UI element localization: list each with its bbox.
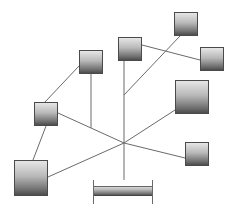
edge-G-H [33, 126, 46, 160]
bus-bar [93, 186, 152, 196]
edge-hub-F [124, 143, 185, 158]
node-H [14, 160, 48, 196]
edge-B-D [142, 45, 200, 60]
node-C [174, 12, 198, 36]
node-F [185, 142, 209, 166]
bus-cap-right [152, 180, 153, 204]
node-G [34, 102, 58, 126]
edge-H-hub [48, 143, 124, 177]
node-A [79, 50, 103, 74]
bus-cap-left [93, 180, 94, 204]
node-D [200, 47, 224, 71]
network-diagram [0, 0, 238, 217]
node-B [118, 37, 142, 61]
edge-hub-E [124, 110, 175, 143]
edge-A-G [45, 66, 79, 102]
node-E [175, 80, 209, 114]
